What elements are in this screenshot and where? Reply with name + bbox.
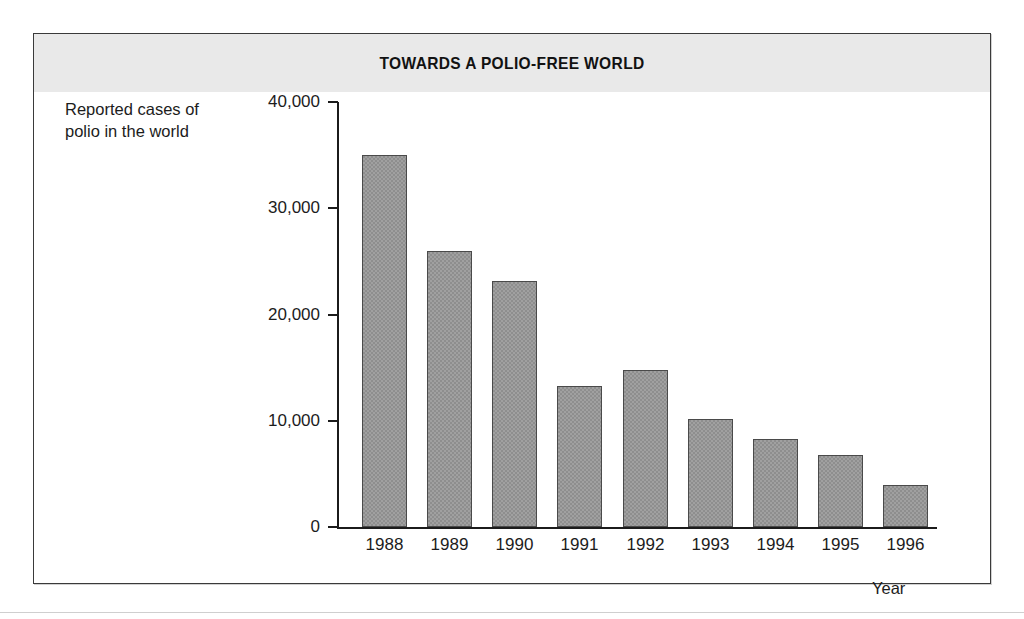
- bar-series: [337, 92, 937, 529]
- bar: [427, 251, 472, 527]
- y-axis-tick-labels: 010,00020,00030,00040,000: [234, 92, 320, 532]
- x-axis-caption: Year: [872, 579, 905, 598]
- y-axis-tick-label: 10,000: [234, 412, 320, 429]
- x-axis-tick-label: 1994: [745, 535, 806, 555]
- page-title: TOWARDS A POLIO-FREE WORLD: [379, 54, 644, 73]
- bar: [688, 419, 733, 527]
- bar: [362, 155, 407, 527]
- x-axis-tick-label: 1993: [680, 535, 741, 555]
- bar: [557, 386, 602, 527]
- x-axis-tick-label: 1991: [549, 535, 610, 555]
- bar: [753, 439, 798, 527]
- x-axis-tick-label: 1992: [615, 535, 676, 555]
- y-axis-tick-label: 20,000: [234, 306, 320, 323]
- page-rule: [0, 612, 1024, 613]
- y-axis-caption: Reported cases of polio in the world: [65, 98, 245, 142]
- x-axis-tick-label: 1989: [419, 535, 480, 555]
- x-axis-tick-label: 1988: [354, 535, 415, 555]
- y-axis-tick-label: 40,000: [234, 93, 320, 110]
- x-axis-tick-label: 1990: [484, 535, 545, 555]
- x-axis-tick-label: 1996: [875, 535, 936, 555]
- y-axis-tick-label: 30,000: [234, 199, 320, 216]
- plot-area: Reported cases of polio in the world 010…: [34, 92, 990, 583]
- y-axis-tick-label: 0: [234, 518, 320, 535]
- bar: [818, 455, 863, 527]
- bar: [492, 281, 537, 528]
- figure-frame: TOWARDS A POLIO-FREE WORLD Reported case…: [33, 33, 991, 584]
- bar: [883, 485, 928, 528]
- bar: [623, 370, 668, 527]
- x-axis-tick-label: 1995: [810, 535, 871, 555]
- chart-title-band: TOWARDS A POLIO-FREE WORLD: [34, 34, 990, 92]
- x-axis-tick-labels: 198819891990199119921993199419951996: [337, 535, 937, 565]
